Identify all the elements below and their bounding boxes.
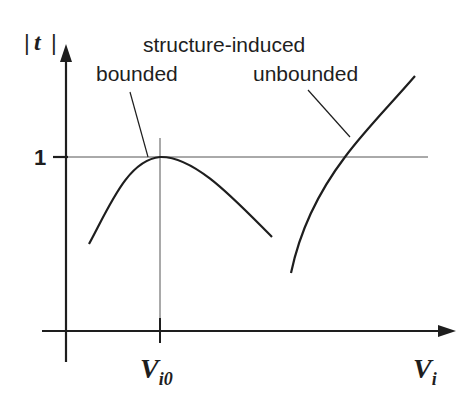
annotation-structure-induced: structure-induced — [143, 33, 305, 56]
x-axis-label-sub: i — [432, 369, 437, 389]
x-tick-label-sub: i0 — [159, 369, 173, 389]
y-axis-label-bar-right: | — [51, 30, 57, 55]
x-axis-label: Vi — [413, 353, 437, 389]
series-unbounded-curve — [291, 76, 415, 273]
y-axis-arrow-icon — [60, 44, 72, 62]
annotation-bounded: bounded — [96, 62, 178, 85]
y-tick-label: 1 — [34, 145, 46, 170]
unbounded-leader-line — [308, 90, 350, 137]
y-axis-label-var: t — [34, 29, 42, 55]
transmission-diagram: structure-induced bounded unbounded | t … — [0, 0, 473, 405]
bounded-leader-line — [130, 92, 148, 157]
series-bounded-curve — [89, 157, 272, 244]
x-axis-arrow-icon — [438, 325, 456, 337]
x-tick-label-vi0: Vi0 — [140, 353, 173, 389]
annotation-unbounded: unbounded — [253, 62, 358, 85]
y-axis-label-bar-left: | — [24, 30, 30, 55]
